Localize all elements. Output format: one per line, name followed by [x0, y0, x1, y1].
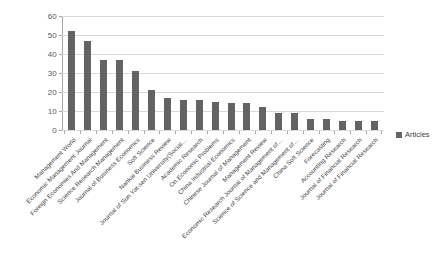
- x-tick-mark: [303, 131, 304, 134]
- x-tick-slot: [223, 131, 239, 135]
- x-tick-slot: [303, 131, 319, 135]
- bar: [228, 103, 235, 130]
- bar: [355, 121, 362, 131]
- bar: [84, 41, 91, 130]
- bar: [164, 98, 171, 130]
- x-tick-mark: [159, 131, 160, 134]
- x-tick-slot: [96, 131, 112, 135]
- x-tick-mark: [144, 131, 145, 134]
- x-axis-category-labels: Management WorldEconomic Management Jour…: [62, 136, 384, 271]
- bar: [212, 102, 219, 131]
- x-tick-slot: [207, 131, 223, 135]
- x-axis-tick-marks: [62, 131, 384, 135]
- x-tick-slot: [319, 131, 335, 135]
- x-tick-mark: [80, 131, 81, 134]
- x-tick-mark: [64, 131, 65, 134]
- x-tick-mark: [239, 131, 240, 134]
- plot-area: 0102030405060: [62, 16, 384, 130]
- bar-slot: [144, 16, 160, 130]
- bar: [371, 121, 378, 131]
- x-tick-slot: [144, 131, 160, 135]
- bar-slot: [350, 16, 366, 130]
- bar: [243, 103, 250, 130]
- x-tick-mark: [175, 131, 176, 134]
- x-tick-slot: [128, 131, 144, 135]
- bar-slot: [287, 16, 303, 130]
- x-tick-slot: [255, 131, 271, 135]
- bar-slot: [207, 16, 223, 130]
- x-axis-label: Economic Management Journal: [0, 136, 93, 273]
- x-tick-mark: [96, 131, 97, 134]
- bar-slot: [159, 16, 175, 130]
- bar: [339, 121, 346, 131]
- y-tick-label-40: 40: [48, 50, 57, 59]
- x-tick-slot: [175, 131, 191, 135]
- x-tick-mark: [112, 131, 113, 134]
- bar: [116, 60, 123, 130]
- y-tick-label-10: 10: [48, 107, 57, 116]
- y-tick-label-20: 20: [48, 88, 57, 97]
- x-tick-mark: [350, 131, 351, 134]
- bar: [259, 107, 266, 130]
- bar: [100, 60, 107, 130]
- bar-slot: [191, 16, 207, 130]
- y-tick-label-50: 50: [48, 31, 57, 40]
- bar-slot: [96, 16, 112, 130]
- x-tick-mark: [366, 131, 367, 134]
- y-tick-label-30: 30: [48, 69, 57, 78]
- bar: [180, 100, 187, 130]
- bar: [148, 90, 155, 130]
- x-tick-slot: [191, 131, 207, 135]
- bar-chart: 0102030405060 Management WorldEconomic M…: [0, 0, 442, 273]
- bar-slot: [223, 16, 239, 130]
- x-tick-mark: [223, 131, 224, 134]
- bar-slot: [303, 16, 319, 130]
- x-tick-mark: [128, 131, 129, 134]
- x-tick-slot: [287, 131, 303, 135]
- bar: [307, 119, 314, 130]
- x-tick-slot: [334, 131, 350, 135]
- y-tick-label-0: 0: [52, 126, 57, 135]
- x-tick-mark: [191, 131, 192, 134]
- bar-slot: [334, 16, 350, 130]
- bar-slot: [271, 16, 287, 130]
- bar: [132, 71, 139, 130]
- bar-slot: [239, 16, 255, 130]
- x-tick-mark: [381, 131, 382, 134]
- x-tick-slot: [271, 131, 287, 135]
- x-tick-slot: [159, 131, 175, 135]
- x-tick-mark: [255, 131, 256, 134]
- bar: [196, 100, 203, 130]
- x-tick-mark: [207, 131, 208, 134]
- bar: [275, 113, 282, 130]
- x-tick-mark: [271, 131, 272, 134]
- x-tick-slot: [239, 131, 255, 135]
- bar: [68, 31, 75, 130]
- bar-series-articles: [62, 16, 384, 130]
- x-tick-mark: [319, 131, 320, 134]
- x-tick-slot: [64, 131, 80, 135]
- bar-slot: [175, 16, 191, 130]
- x-tick-slot: [350, 131, 366, 135]
- bar: [323, 119, 330, 130]
- chart-legend: Articles: [396, 130, 430, 139]
- x-tick-mark: [287, 131, 288, 134]
- legend-swatch-articles: [396, 132, 402, 138]
- y-tick-label-60: 60: [48, 12, 57, 21]
- x-tick-mark: [334, 131, 335, 134]
- x-tick-slot: [366, 131, 382, 135]
- legend-label-articles: Articles: [405, 130, 430, 139]
- x-tick-slot: [112, 131, 128, 135]
- bar-slot: [80, 16, 96, 130]
- x-tick-slot: [80, 131, 96, 135]
- bar-slot: [64, 16, 80, 130]
- bar-slot: [128, 16, 144, 130]
- bar-slot: [366, 16, 382, 130]
- bar-slot: [255, 16, 271, 130]
- bar-slot: [319, 16, 335, 130]
- bar: [291, 113, 298, 130]
- bar-slot: [112, 16, 128, 130]
